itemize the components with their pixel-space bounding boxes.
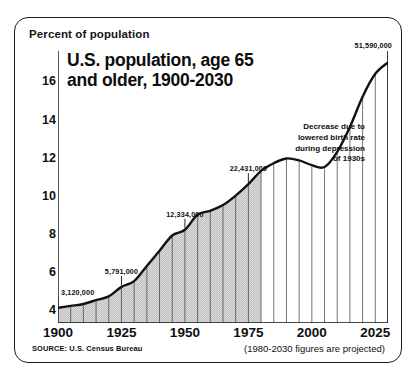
x-axis-label-2025: 2025: [360, 325, 390, 340]
value-label-1975: 22,431,000: [230, 164, 267, 173]
annotation-line-4: of 1930s: [243, 154, 365, 165]
y-axis-label-10: 10: [34, 189, 56, 203]
value-label-1950: 12,334,000: [166, 210, 203, 219]
y-axis-unit-label: Percent of population: [29, 28, 150, 40]
chart-plot-svg: [58, 51, 388, 323]
y-axis-label-4: 4: [34, 303, 56, 317]
x-axis-label-1975: 1975: [233, 325, 263, 340]
value-label-2030: 51,590,000: [355, 41, 392, 50]
annotation-line-3: during depression: [243, 144, 365, 155]
x-axis-label-1950: 1950: [170, 325, 200, 340]
plot-area: [58, 51, 388, 323]
y-axis-label-16: 16: [34, 74, 56, 88]
chart-card: Percent of population U.S. population, a…: [14, 17, 402, 363]
value-label-1925: 5,791,000: [105, 267, 138, 276]
value-label-1900: 3,120,000: [61, 288, 94, 297]
y-axis-label-14: 14: [34, 113, 56, 127]
y-axis-tick-labels: 46810121416: [28, 51, 56, 323]
y-axis-label-6: 6: [34, 265, 56, 279]
x-axis-label-2000: 2000: [297, 325, 327, 340]
x-axis-label-1925: 1925: [106, 325, 136, 340]
x-axis-tick-labels: 190019251950197520002025: [58, 325, 388, 345]
y-axis-label-12: 12: [34, 151, 56, 165]
x-axis-label-1900: 1900: [43, 325, 73, 340]
y-axis-label-8: 8: [34, 227, 56, 241]
source-note: SOURCE: U.S. Census Bureau: [32, 344, 142, 353]
projection-note: (1980-2030 figures are projected): [244, 343, 385, 354]
annotation-line-1: Decrease due to: [243, 122, 365, 133]
annotation-line-2: lowered birth rate: [243, 133, 365, 144]
depression-annotation: Decrease due to lowered birth rate durin…: [243, 122, 365, 165]
